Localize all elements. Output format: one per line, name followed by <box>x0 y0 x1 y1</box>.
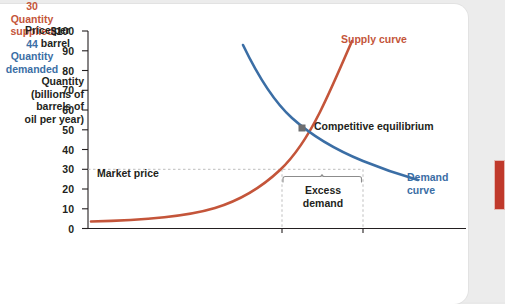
excess-demand-label: Excess demand <box>285 184 361 210</box>
y-tick-label-70: 70 <box>30 84 74 96</box>
y-tick-label-30: 30 <box>30 163 74 175</box>
y-tick-label-100: $100 <box>30 25 74 37</box>
y-tick-label-80: 80 <box>30 65 74 77</box>
supply-curve-label: Supply curve <box>341 33 407 45</box>
market-price-label: Market price <box>97 167 159 179</box>
y-tick-label-40: 40 <box>30 144 74 156</box>
y-tick-label-10: 10 <box>30 203 74 215</box>
demand-curve-path <box>243 45 418 180</box>
y-tick-label-90: 90 <box>30 45 74 57</box>
y-tick-label-50: 50 <box>30 124 74 136</box>
y-tick-label-60: 60 <box>30 104 74 116</box>
y-tick-label-20: 20 <box>30 183 74 195</box>
competitive-equilibrium-marker <box>299 125 306 132</box>
y-axis-ticks <box>82 31 88 229</box>
demand-curve-label: Demand curve <box>407 171 469 197</box>
excess-demand-brace <box>283 174 362 182</box>
y-tick-label-0: 0 <box>30 223 74 235</box>
x-axis-ticks <box>282 229 363 234</box>
competitive-equilibrium-label: Competitive equilibrium <box>314 120 434 132</box>
